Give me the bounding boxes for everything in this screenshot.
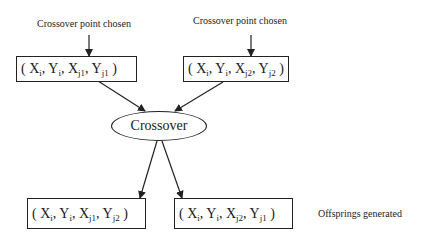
parent-chromosome-1: ( Xi, Yi, Xj1, Yj1 ) [16,56,137,82]
tuple-term: Yi [59,206,72,221]
crossover-point-label-right: Crossover point chosen [193,15,287,26]
tuple-text: ( Xi, Yi, Xj2, Yj1 ) [179,207,275,221]
tuple-term: Xj1 [79,206,96,221]
tuple-term: Yj2 [103,206,120,221]
offspring-chromosome-1: ( Xi, Yi, Xj1, Yj2 ) [27,198,146,229]
tuple-term: Xi [40,206,53,221]
arrow-crossover-to-offspring1 [140,141,157,198]
crossover-operator-node: Crossover [111,111,207,141]
tuple-term: Yi [206,206,219,221]
tuple-term: Yj2 [259,61,276,76]
parent-chromosome-2: ( Xi, Yi, Xj2, Yj2 ) [183,56,289,82]
tuple-term: Xj2 [235,61,252,76]
tuple-text: ( Xi, Yi, Xj2, Yj2 ) [188,62,284,76]
tuple-text: ( Xi, Yi, Xj1, Yj2 ) [32,207,128,221]
tuple-term: Xi [29,61,42,76]
crossover-point-label-left: Crossover point chosen [37,18,131,29]
arrow-parent1-to-crossover [98,81,145,111]
tuple-term: Yi [215,61,228,76]
tuple-term: Xi [187,206,200,221]
tuple-term: Xi [196,61,209,76]
tuple-term: Xj1 [68,61,85,76]
offspring-chromosome-2: ( Xi, Yi, Xj2, Yj1 ) [174,198,293,229]
tuple-text: ( Xi, Yi, Xj1, Yj1 ) [21,62,117,76]
arrow-parent2-to-crossover [175,82,223,111]
tuple-term: Yi [48,61,61,76]
crossover-label: Crossover [131,118,188,134]
arrow-crossover-to-offspring2 [162,141,182,198]
offsprings-generated-label: Offsprings generated [318,208,402,219]
tuple-term: Yj1 [92,61,109,76]
tuple-term: Xj2 [226,206,243,221]
tuple-term: Yj1 [250,206,267,221]
